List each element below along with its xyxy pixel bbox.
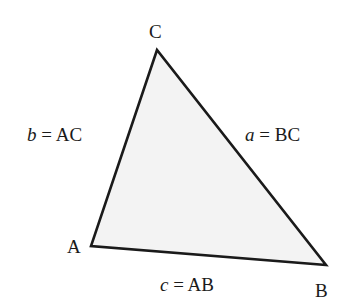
side-var-a: a: [245, 124, 255, 145]
equals-sign: =: [255, 124, 275, 145]
side-name-ac: AC: [56, 124, 82, 145]
side-label-c: c = AB: [160, 275, 214, 294]
side-name-ab: AB: [188, 274, 214, 295]
side-label-a: a = BC: [245, 125, 300, 144]
equals-sign: =: [37, 124, 56, 145]
triangle-abc: [91, 50, 326, 265]
vertex-label-a: A: [67, 237, 81, 256]
vertex-label-b: B: [315, 281, 328, 300]
triangle-figure: [0, 0, 345, 307]
side-var-b: b: [27, 124, 37, 145]
side-name-bc: BC: [275, 124, 300, 145]
equals-sign: =: [168, 274, 187, 295]
side-label-b: b = AC: [27, 125, 82, 144]
vertex-label-c: C: [149, 22, 162, 41]
